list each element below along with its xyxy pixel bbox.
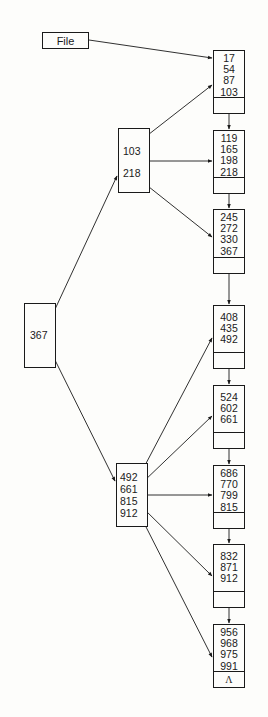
internal-key: 912 <box>120 508 138 519</box>
leaf-key: 492 <box>214 334 244 345</box>
leaf-next-pointer <box>213 352 245 369</box>
leaf-key: 975 <box>214 649 244 660</box>
leaf-key: 799 <box>214 490 244 501</box>
internal-2-to-leaf-7-arrow <box>142 507 212 576</box>
internal-key: 661 <box>120 484 138 495</box>
internal-key: 218 <box>123 168 141 179</box>
internal-key: 492 <box>120 472 138 483</box>
leaf-next-pointer <box>213 177 245 194</box>
internal-1-to-leaf-1-arrow <box>144 85 212 138</box>
b-plus-tree-diagram: File 367 103 218 492 661 815 912 17 54 8… <box>0 0 268 717</box>
leaf-next-pointer <box>213 432 245 449</box>
leaf-key: 661 <box>214 414 244 425</box>
internal-node-1: 103 218 <box>118 128 150 193</box>
leaf-node-7: 832 871 912 <box>213 544 245 608</box>
internal-node-2: 492 661 815 912 <box>116 463 148 527</box>
root-to-internal-2-arrow <box>50 350 115 481</box>
leaf-node-1: 17 54 87 103 <box>213 50 245 114</box>
file-label: File <box>57 35 75 47</box>
leaf-key: 198 <box>214 155 244 166</box>
leaf-key: 87 <box>214 75 244 86</box>
root-node: 367 <box>24 303 56 368</box>
leaf-node-4: 408 435 492 <box>213 305 245 369</box>
leaf-node-6: 686 770 799 815 <box>213 465 245 529</box>
leaf-next-pointer <box>213 97 245 114</box>
internal-key: 815 <box>120 496 138 507</box>
leaf-node-3: 245 272 330 367 <box>213 209 245 274</box>
file-box: File <box>42 32 89 49</box>
root-key: 367 <box>30 330 48 341</box>
file-pointer-arrow <box>89 40 212 58</box>
leaf-next-pointer <box>213 512 245 529</box>
leaf-key: 912 <box>214 573 244 584</box>
leaf-key: 330 <box>214 234 244 245</box>
leaf-node-5: 524 602 661 <box>213 385 245 449</box>
internal-2-to-leaf-5-arrow <box>142 416 212 483</box>
leaf-next-pointer <box>213 257 245 274</box>
leaf-key: 367 <box>214 246 244 257</box>
root-to-internal-1-arrow <box>50 176 117 320</box>
internal-key: 103 <box>123 146 141 157</box>
null-pointer-lambda: Λ <box>213 671 245 688</box>
leaf-node-8: 956 968 975 991 Λ <box>213 624 245 688</box>
internal-2-to-leaf-8-arrow <box>142 519 212 657</box>
leaf-next-pointer <box>213 591 245 608</box>
internal-2-to-leaf-4-arrow <box>142 338 212 471</box>
leaf-node-2: 119 165 198 218 <box>213 130 245 194</box>
internal-1-to-leaf-3-arrow <box>144 183 212 237</box>
